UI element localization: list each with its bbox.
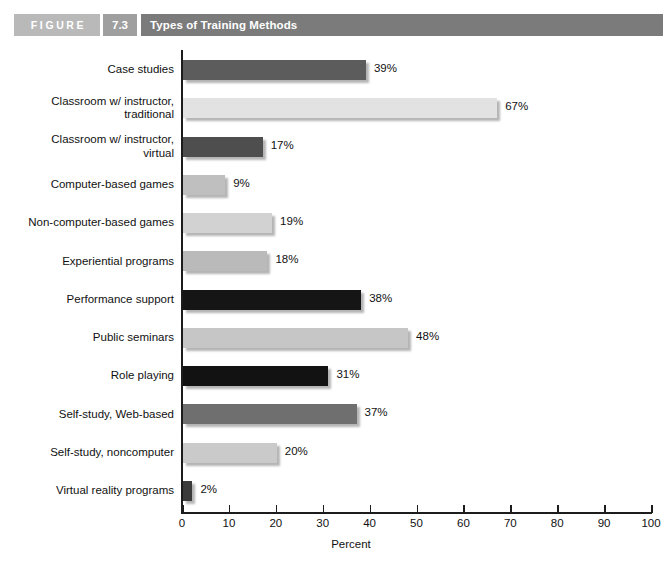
category-label: Role playing [0,369,174,383]
x-tick-label: 90 [598,517,611,529]
bar-row: Public seminars48% [0,319,670,357]
category-label: Case studies [0,63,174,77]
x-tick-label: 30 [316,517,329,529]
bar-row: Role playing31% [0,357,670,395]
bar-fill [183,443,277,463]
category-label: Self-study, Web-based [0,408,174,422]
x-tick [463,505,465,513]
category-label: Classroom w/ instructor, virtual [0,133,174,160]
bar-value-label: 31% [336,368,359,380]
bar-fill [183,481,192,501]
bar-row: Self-study, Web-based37% [0,395,670,433]
figure-title: Types of Training Methods [141,14,663,36]
x-tick [276,505,278,513]
category-label: Public seminars [0,331,174,345]
bar [183,290,361,310]
bar-value-label: 38% [369,292,392,304]
category-label: Virtual reality programs [0,484,174,498]
x-tick [417,505,419,513]
category-label: Performance support [0,293,174,307]
bar-row: Virtual reality programs2% [0,472,670,510]
category-label: Experiential programs [0,255,174,269]
bar [183,404,357,424]
bar-value-label: 37% [365,406,388,418]
x-tick-label: 80 [551,517,564,529]
category-label: Self-study, noncomputer [0,446,174,460]
bar-row: Self-study, noncomputer20% [0,434,670,472]
bar-fill [183,404,357,424]
x-tick [182,505,184,513]
figure-number-badge: 7.3 [103,14,137,36]
x-tick-label: 50 [410,517,423,529]
bar-row: Non-computer-based games19% [0,204,670,242]
x-tick [510,505,512,513]
bar-row: Classroom w/ instructor, virtual17% [0,128,670,166]
category-label: Classroom w/ instructor, traditional [0,95,174,122]
figure-word-badge: FIGURE [14,14,100,36]
x-tick [604,505,606,513]
bar [183,443,277,463]
bar-fill [183,290,361,310]
bar-value-label: 2% [200,483,217,495]
category-label: Non-computer-based games [0,216,174,230]
bar-fill [183,366,328,386]
bar-row: Case studies39% [0,51,670,89]
x-tick [323,505,325,513]
bar-row: Performance support38% [0,281,670,319]
bar-fill [183,137,263,157]
bar [183,328,408,348]
x-tick [370,505,372,513]
bar-fill [183,175,225,195]
bar-value-label: 48% [416,330,439,342]
bar-value-label: 9% [233,177,250,189]
x-tick-label: 100 [641,517,660,529]
x-tick-label: 70 [504,517,517,529]
x-axis-title-text: Percent [331,538,371,550]
bar [183,213,272,233]
bar-row: Computer-based games9% [0,166,670,204]
figure-header: FIGURE 7.3 Types of Training Methods [14,14,663,36]
bar-value-label: 67% [505,100,528,112]
x-tick-label: 40 [363,517,376,529]
bar-value-label: 19% [280,215,303,227]
x-tick-label: 20 [269,517,282,529]
bar [183,137,263,157]
bar-row: Experiential programs18% [0,242,670,280]
bar [183,98,497,118]
bar [183,481,192,501]
bar-fill [183,251,267,271]
bar-chart: Case studies39%Classroom w/ instructor, … [0,46,670,577]
x-tick [229,505,231,513]
bar [183,60,366,80]
bar-value-label: 20% [285,445,308,457]
bar [183,175,225,195]
bar [183,366,328,386]
x-tick-label: 10 [222,517,235,529]
bar-fill [183,60,366,80]
category-label: Computer-based games [0,178,174,192]
x-tick-label: 60 [457,517,470,529]
x-axis-title: Percent [0,538,670,550]
x-tick [557,505,559,513]
bar-fill [183,98,497,118]
bar-fill [183,213,272,233]
x-tick [651,505,653,513]
bar-value-label: 17% [271,139,294,151]
bar-value-label: 39% [374,62,397,74]
bar-row: Classroom w/ instructor, traditional67% [0,89,670,127]
bar [183,251,267,271]
bar-fill [183,328,408,348]
bar-value-label: 18% [275,253,298,265]
x-tick-label: 0 [179,517,185,529]
